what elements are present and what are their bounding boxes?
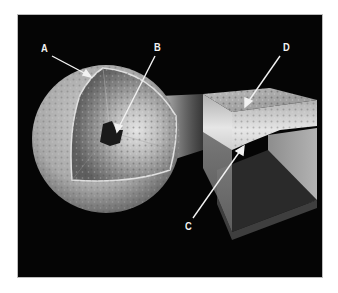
label-a: A	[41, 43, 48, 54]
label-c: C	[185, 221, 192, 232]
label-d: D	[283, 42, 290, 53]
surface-cube	[203, 88, 317, 240]
label-b: B	[154, 42, 161, 53]
europa-sphere	[32, 65, 180, 213]
arrow-A	[52, 56, 88, 75]
